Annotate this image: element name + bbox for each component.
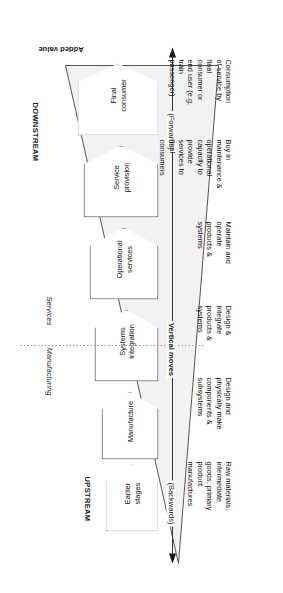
backwards-label: (Backwards) — [166, 480, 175, 526]
value-chain-diagram: Earlierstages Manufacture Systemsintegra… — [0, 0, 283, 593]
desc-systems-integration: Design & integrate products & systems — [194, 305, 232, 367]
desc-final-consumer: Consumption of service by final consumer… — [166, 59, 232, 125]
upstream-label: UPSTREAM — [82, 476, 91, 521]
manufacturing-text: Manufacturing — [44, 347, 53, 395]
added-value-text: Added value — [38, 44, 83, 53]
vertical-moves-text: Vertical moves — [166, 322, 175, 375]
downstream-text: DOWNSTREAM — [30, 102, 39, 161]
desc-manufacture: Design and physically make components & … — [194, 377, 232, 449]
desc-operational-services: Maintain and operate products & systems — [194, 221, 232, 287]
stage-label: Operationalservices — [114, 240, 132, 278]
desc-service-provision: Buy in maintenance & operational capacit… — [157, 139, 232, 205]
stage-label: Finalconsumer — [108, 79, 126, 111]
desc-earlier-stages: Raw materials, intermediate goods, prima… — [185, 461, 232, 531]
backwards-text: (Backwards) — [166, 482, 175, 524]
stage-label: Manufacture — [125, 400, 134, 441]
stage-label: Serviceprovision — [111, 162, 129, 192]
services-label: Services — [44, 296, 53, 325]
stage-label: Systemsintegration — [117, 324, 135, 359]
manufacturing-label: Manufacturing — [44, 347, 53, 395]
upstream-text: UPSTREAM — [82, 476, 91, 521]
stage-label: Earlierstages — [122, 482, 140, 504]
added-value-label: Added value — [38, 44, 83, 53]
vertical-moves-label: Vertical moves — [166, 320, 175, 377]
services-text: Services — [44, 296, 53, 325]
diagram-rotation-wrapper: Earlierstages Manufacture Systemsintegra… — [0, 0, 283, 593]
downstream-label: DOWNSTREAM — [30, 102, 39, 161]
